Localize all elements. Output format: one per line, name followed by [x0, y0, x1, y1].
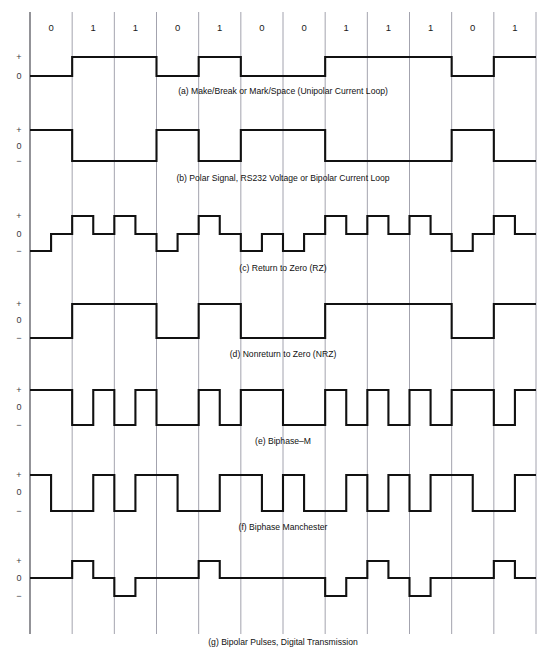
axis-label-plus-b: + [16, 125, 21, 135]
axis-label-plus-a: + [16, 52, 21, 62]
panel-caption-a: (a) Make/Break or Mark/Space (Unipolar C… [178, 86, 388, 96]
panel-caption-g: (g) Bipolar Pulses, Digital Transmission [208, 637, 358, 647]
bit-label-9: 1 [428, 22, 433, 33]
bit-label-0: 0 [48, 22, 53, 33]
bit-label-8: 1 [386, 22, 391, 33]
axis-label-plus-d: + [16, 299, 21, 309]
axis-label-minus-c: − [16, 246, 21, 256]
panel-c: +0−(c) Return to Zero (RZ) [16, 211, 536, 273]
axis-label-zero-g: 0 [16, 573, 21, 583]
axis-label-plus-e: + [16, 385, 21, 395]
axis-label-zero-c: 0 [16, 229, 21, 239]
axis-label-minus-f: − [16, 506, 21, 516]
axis-label-minus-d: − [16, 333, 21, 343]
waveform-canvas: 011010011101+0(a) Make/Break or Mark/Spa… [0, 0, 555, 660]
bit-label-6: 0 [301, 22, 306, 33]
bit-label-2: 1 [133, 22, 138, 33]
axis-label-zero-b: 0 [16, 141, 21, 151]
axis-label-plus-f: + [16, 470, 21, 480]
panel-caption-e: (e) Biphase–M [255, 436, 311, 446]
panel-e: +0−(e) Biphase–M [16, 385, 536, 446]
panel-caption-f: (f) Biphase Manchester [239, 522, 328, 532]
axis-label-plus-c: + [16, 211, 21, 221]
axis-label-minus-b: − [16, 156, 21, 166]
panel-caption-b: (b) Polar Signal, RS232 Voltage or Bipol… [176, 173, 389, 183]
waveform-e [30, 390, 536, 425]
panel-caption-c: (c) Return to Zero (RZ) [239, 263, 327, 273]
panel-a: +0(a) Make/Break or Mark/Space (Unipolar… [16, 52, 536, 96]
axis-label-zero-a: 0 [16, 71, 21, 81]
axis-label-plus-g: + [16, 556, 21, 566]
waveform-f [30, 475, 536, 511]
bit-label-10: 0 [470, 22, 475, 33]
panel-g: +0−(g) Bipolar Pulses, Digital Transmiss… [16, 556, 536, 647]
bit-label-1: 1 [91, 22, 96, 33]
panel-b: +0−(b) Polar Signal, RS232 Voltage or Bi… [16, 125, 536, 183]
axis-label-minus-e: − [16, 420, 21, 430]
bit-label-5: 0 [259, 22, 264, 33]
axis-label-zero-d: 0 [16, 315, 21, 325]
bit-label-4: 1 [217, 22, 222, 33]
signal-encoding-figure: 011010011101+0(a) Make/Break or Mark/Spa… [0, 0, 555, 660]
bit-label-11: 1 [512, 22, 517, 33]
bit-label-7: 1 [344, 22, 349, 33]
bit-label-3: 0 [175, 22, 180, 33]
axis-label-zero-f: 0 [16, 487, 21, 497]
axis-label-zero-e: 0 [16, 402, 21, 412]
panel-f: +0−(f) Biphase Manchester [16, 470, 536, 532]
panel-d: +0−(d) Nonreturn to Zero (NRZ) [16, 299, 536, 359]
axis-label-minus-g: − [16, 591, 21, 601]
panel-caption-d: (d) Nonreturn to Zero (NRZ) [230, 349, 337, 359]
